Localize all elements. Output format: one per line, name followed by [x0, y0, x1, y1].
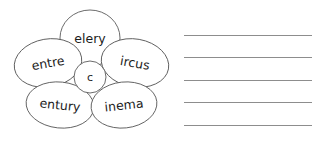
worksheet-canvas: elery entre ircus entury inema c — [0, 0, 326, 141]
flower-center[interactable]: c — [74, 61, 106, 93]
flower-center-label: c — [87, 71, 93, 84]
writing-line[interactable] — [184, 35, 312, 36]
writing-line[interactable] — [184, 80, 312, 81]
writing-line[interactable] — [184, 102, 312, 103]
writing-line[interactable] — [184, 57, 312, 58]
writing-line[interactable] — [184, 125, 312, 126]
petal-top-label: elery — [74, 31, 106, 46]
word-family-flower-diagram: elery entre ircus entury inema c — [0, 0, 180, 141]
writing-lines-group — [184, 0, 312, 141]
